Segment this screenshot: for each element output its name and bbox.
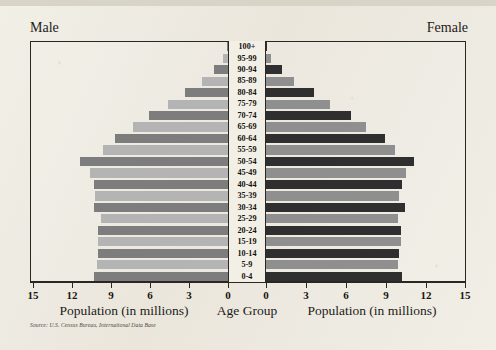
center-axis-title: Age Group (217, 303, 277, 319)
bar-female-70-74 (266, 111, 351, 120)
female-side-label: Female (427, 20, 468, 36)
bar-female-60-64 (266, 134, 385, 143)
tick-left-12 (72, 282, 73, 288)
bar-male-65-69 (133, 122, 228, 131)
age-label-40-44: 40-44 (228, 181, 266, 189)
x-axis-line (30, 282, 466, 283)
bar-male-20-24 (98, 226, 228, 235)
tick-right-3 (306, 282, 307, 288)
bar-male-50-54 (80, 157, 228, 166)
left-axis-title: Population (in millions) (59, 303, 188, 319)
bar-female-0-4 (266, 272, 402, 281)
age-label-65-69: 65-69 (228, 123, 266, 131)
bar-male-55-59 (103, 145, 228, 154)
bar-male-15-19 (98, 237, 228, 246)
tick-label-left-6: 6 (147, 289, 153, 301)
bar-male-35-39 (95, 191, 228, 200)
age-label-45-49: 45-49 (228, 169, 266, 177)
tick-label-left-0: 0 (225, 289, 231, 301)
age-label-0-4: 0-4 (228, 273, 266, 281)
bar-female-15-19 (266, 237, 401, 246)
tick-label-left-3: 3 (186, 289, 192, 301)
tick-label-right-6: 6 (343, 289, 349, 301)
tick-label-right-12: 12 (421, 289, 432, 301)
tick-label-right-0: 0 (263, 289, 269, 301)
tick-right-6 (346, 282, 347, 288)
tick-left-0 (228, 282, 229, 288)
bar-male-10-14 (98, 249, 228, 258)
bar-female-90-94 (266, 65, 282, 74)
age-label-35-39: 35-39 (228, 192, 266, 200)
bar-male-30-34 (94, 203, 228, 212)
tick-label-right-15: 15 (460, 289, 471, 301)
tick-right-12 (426, 282, 427, 288)
tick-label-right-9: 9 (383, 289, 389, 301)
age-label-20-24: 20-24 (228, 227, 266, 235)
ghost-header-text (160, 0, 460, 8)
tick-label-left-15: 15 (28, 289, 39, 301)
bar-male-45-49 (90, 168, 228, 177)
tick-right-9 (386, 282, 387, 288)
age-label-95-99: 95-99 (228, 55, 266, 63)
bar-female-30-34 (266, 203, 405, 212)
bar-female-55-59 (266, 145, 395, 154)
bar-female-25-29 (266, 214, 398, 223)
age-label-80-84: 80-84 (228, 89, 266, 97)
tick-right-15 (465, 282, 466, 288)
tick-label-left-9: 9 (108, 289, 114, 301)
bar-female-35-39 (266, 191, 399, 200)
age-label-100+: 100+ (228, 43, 266, 51)
source-note: Source: U.S. Census Bureau, Internationa… (30, 322, 156, 328)
tick-left-6 (150, 282, 151, 288)
bar-male-75-79 (168, 100, 228, 109)
age-label-85-89: 85-89 (228, 77, 266, 85)
tick-left-15 (33, 282, 34, 288)
male-side-label: Male (30, 20, 59, 36)
bar-male-60-64 (115, 134, 228, 143)
bar-female-10-14 (266, 249, 399, 258)
tick-label-left-12: 12 (67, 289, 78, 301)
age-label-55-59: 55-59 (228, 146, 266, 154)
bar-male-40-44 (94, 180, 228, 189)
age-label-75-79: 75-79 (228, 100, 266, 108)
bar-male-25-29 (101, 214, 228, 223)
age-label-15-19: 15-19 (228, 238, 266, 246)
bar-female-95-99 (266, 54, 271, 63)
bar-female-20-24 (266, 226, 401, 235)
tick-label-right-3: 3 (303, 289, 309, 301)
tick-left-3 (189, 282, 190, 288)
bar-female-80-84 (266, 88, 314, 97)
bar-male-5-9 (97, 260, 228, 269)
bar-male-90-94 (214, 65, 228, 74)
age-label-60-64: 60-64 (228, 135, 266, 143)
age-label-70-74: 70-74 (228, 112, 266, 120)
bar-female-100+ (266, 42, 267, 51)
age-label-50-54: 50-54 (228, 158, 266, 166)
bar-male-0-4 (94, 272, 228, 281)
bar-female-50-54 (266, 157, 414, 166)
bar-female-45-49 (266, 168, 406, 177)
bar-male-85-89 (202, 77, 228, 86)
age-label-10-14: 10-14 (228, 250, 266, 258)
bar-female-65-69 (266, 122, 366, 131)
bar-female-40-44 (266, 180, 402, 189)
tick-left-9 (111, 282, 112, 288)
right-axis-title: Population (in millions) (307, 303, 436, 319)
age-label-25-29: 25-29 (228, 215, 266, 223)
bar-male-80-84 (185, 88, 228, 97)
tick-right-0 (266, 282, 267, 288)
bar-female-75-79 (266, 100, 330, 109)
bar-female-5-9 (266, 260, 398, 269)
age-label-30-34: 30-34 (228, 204, 266, 212)
age-label-90-94: 90-94 (228, 66, 266, 74)
age-label-5-9: 5-9 (228, 261, 266, 269)
bar-male-70-74 (149, 111, 228, 120)
bar-female-85-89 (266, 77, 294, 86)
